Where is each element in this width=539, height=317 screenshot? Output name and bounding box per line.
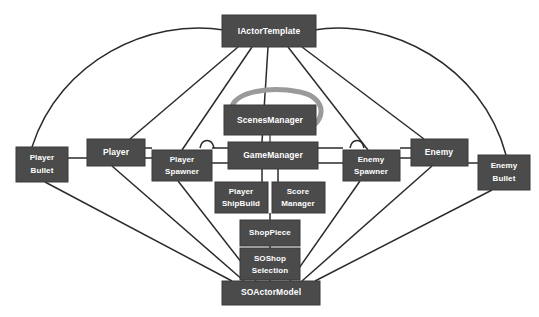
node-playerbullet[interactable]: Player Bullet [16, 147, 68, 182]
edge-iactortemplate-enemy [302, 47, 424, 139]
edge-iactortemplate-playerbullet [32, 28, 224, 147]
edge-iactortemplate-player [130, 47, 238, 139]
node-enemy[interactable]: Enemy [411, 139, 468, 166]
node-shoppiece[interactable]: ShopPiece [240, 220, 300, 246]
node-player[interactable]: Player [87, 139, 145, 166]
node-soshopselection[interactable]: SOShop Selection [240, 248, 300, 280]
node-scenesmanager[interactable]: ScenesManager [224, 105, 316, 135]
node-playerspawner[interactable]: Player Spawner [152, 150, 212, 181]
edge-hop-left [200, 141, 214, 149]
edge-soactormodel-enemybullet [315, 190, 492, 281]
edge-soactormodel-playerbullet [45, 182, 232, 281]
node-enemybullet[interactable]: Enemy Bullet [478, 155, 530, 190]
edge-iactortemplate-enemybullet [314, 28, 506, 155]
node-enemyspawner[interactable]: Enemy Spawner [343, 150, 400, 181]
class-dependency-diagram: IActorTemplate ScenesManager GameManager… [0, 0, 539, 317]
node-soactormodel[interactable]: SOActorModel [222, 281, 320, 305]
node-gamemanager[interactable]: GameManager [228, 142, 318, 169]
node-playershipbuild[interactable]: Player ShipBuild [215, 182, 268, 213]
node-iactortemplate[interactable]: IActorTemplate [222, 15, 316, 47]
node-scoremanager[interactable]: Score Manager [272, 182, 325, 213]
node-layer: IActorTemplate ScenesManager GameManager… [16, 15, 530, 305]
